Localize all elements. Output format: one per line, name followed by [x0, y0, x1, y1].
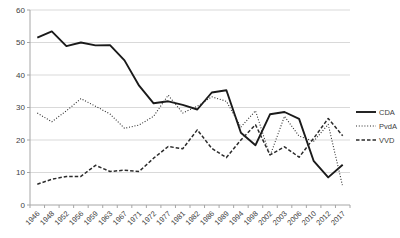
x-tick-label-1963: 1963 — [96, 209, 114, 227]
x-tick-label-1977: 1977 — [154, 209, 172, 227]
x-tick-label-1994: 1994 — [227, 209, 245, 227]
y-tick-label-30: 30 — [16, 103, 25, 112]
x-tick-label-2006: 2006 — [285, 209, 303, 227]
y-tick-label-0: 0 — [21, 201, 26, 210]
series-line-cda — [37, 31, 342, 177]
legend-label-pvda: PvdA — [379, 122, 397, 131]
x-tick-label-1959: 1959 — [82, 209, 100, 227]
series-line-vvd — [37, 119, 342, 185]
legend-label-cda: CDA — [379, 108, 395, 117]
y-tick-label-50: 50 — [16, 38, 25, 47]
y-tick-label-20: 20 — [16, 136, 25, 145]
x-tick-label-2003: 2003 — [271, 209, 289, 227]
x-tick-label-2012: 2012 — [314, 209, 332, 227]
x-tick-label-1946: 1946 — [24, 209, 42, 227]
legend-label-vvd: VVD — [379, 136, 395, 145]
x-tick-label-1972: 1972 — [140, 209, 158, 227]
x-tick-label-1981: 1981 — [169, 209, 187, 227]
x-tick-label-2017: 2017 — [329, 209, 347, 227]
x-tick-label-1989: 1989 — [213, 209, 231, 227]
x-tick-label-1948: 1948 — [38, 209, 56, 227]
x-tick-label-1971: 1971 — [125, 209, 143, 227]
x-tick-label-1967: 1967 — [111, 209, 129, 227]
x-tick-label-2002: 2002 — [256, 209, 274, 227]
x-tick-label-1986: 1986 — [198, 209, 216, 227]
election-line-chart: 0102030405060194619481952195619591963196… — [0, 0, 400, 238]
x-tick-label-2010: 2010 — [300, 209, 318, 227]
x-tick-label-1956: 1956 — [67, 209, 85, 227]
y-tick-label-40: 40 — [16, 71, 25, 80]
y-tick-label-60: 60 — [16, 6, 25, 15]
x-tick-label-1982: 1982 — [184, 209, 202, 227]
x-tick-label-1952: 1952 — [53, 209, 71, 227]
y-tick-label-10: 10 — [16, 168, 25, 177]
x-tick-label-1998: 1998 — [242, 209, 260, 227]
chart-container: 0102030405060194619481952195619591963196… — [0, 0, 400, 238]
